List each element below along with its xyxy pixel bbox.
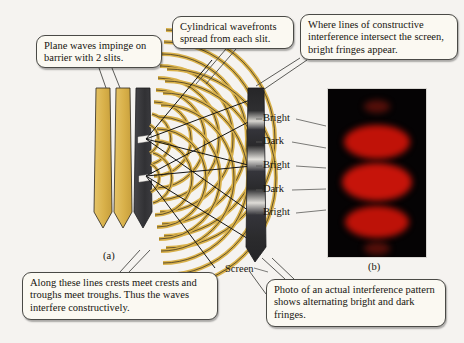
fringe-label-bright-2: Bright [263,159,290,170]
callout-bright-fringes: Where lines of constructive interference… [300,14,458,60]
interference-photograph [327,88,427,258]
callout-plane-waves: Plane waves impinge on barrier with 2 sl… [36,35,162,68]
plane-wavefronts [94,88,132,228]
barrier-with-slits [134,88,152,228]
callout-constructive-lines: Along these lines crests meet crests and… [22,272,218,320]
photo-fringe [364,100,390,113]
fringe-label-dark-1: Dark [263,135,284,146]
callout-cylindrical-wavefronts: Cylindrical wavefronts spread from each … [172,16,294,49]
screen-label: Screen [225,263,254,274]
fringe-label-bright-3: Bright [263,206,290,217]
photo-fringe [344,125,410,159]
fringe-label-dark-2: Dark [263,183,284,194]
screen-label-leader [254,268,268,272]
photo-fringe [345,206,409,238]
callout-photo-description: Photo of an actual interference pattern … [266,279,446,327]
part-label-a: (a) [103,250,115,261]
part-label-b: (b) [368,261,380,272]
photo-fringe [342,163,412,201]
figure-canvas: Bright Dark Bright Dark Bright (a) (b) S… [0,0,464,343]
fringe-label-bright-1: Bright [263,112,290,123]
photo-fringe [364,242,390,255]
